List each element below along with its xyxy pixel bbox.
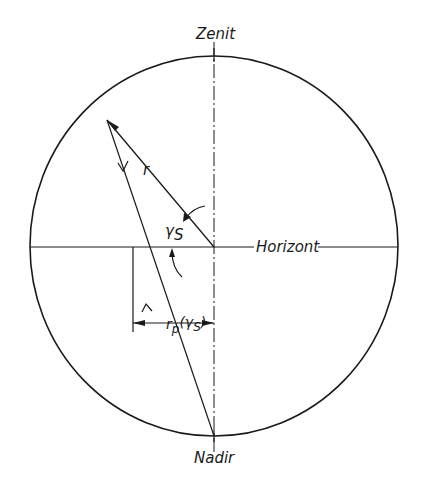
angle-arrowhead-lower (169, 248, 175, 257)
nadir-label: Nadir (194, 449, 235, 467)
celestial-sphere-diagram: Zenit Nadir Horizont r γS rp(γS) (0, 0, 421, 483)
projection-label: rp(γS) (166, 314, 206, 336)
dimension-arrow-left (133, 320, 145, 326)
horizon-label: Horizont (256, 238, 320, 256)
angle-label: γS (165, 222, 184, 244)
zenith-label: Zenit (195, 25, 236, 43)
projection-ray (107, 120, 214, 436)
ray-arrow-lower (142, 304, 152, 312)
radius-line (107, 120, 214, 247)
radius-label: r (143, 161, 150, 179)
